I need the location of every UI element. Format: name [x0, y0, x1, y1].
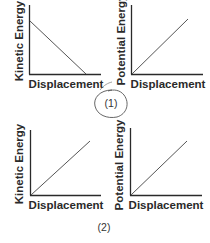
- y-axis-label: Kinetic Energy: [13, 123, 25, 204]
- y-axis-label: Potential Energy: [113, 119, 125, 210]
- y-axis-label: Potential Energy: [115, 0, 127, 85]
- x-axis-label: Displacement: [29, 78, 104, 90]
- graph-1-potential-energy: Potential Energy Displacement: [115, 0, 206, 90]
- x-axis-label: Displacement: [29, 199, 104, 211]
- data-line: [131, 141, 187, 195]
- graph-1-kinetic-energy: Kinetic Energy Displacement: [13, 0, 104, 90]
- data-line: [31, 141, 90, 195]
- graph-2-potential-energy: Potential Energy Displacement: [113, 119, 204, 211]
- caption-2-label: (2): [98, 221, 111, 233]
- caption-1-label: (1): [105, 97, 118, 109]
- y-axis-label: Kinetic Energy: [13, 0, 25, 81]
- x-axis-label: Displacement: [129, 199, 204, 211]
- graph-2-kinetic-energy: Kinetic Energy Displacement: [13, 123, 104, 211]
- x-axis-label: Displacement: [131, 78, 206, 90]
- data-line: [30, 21, 86, 74]
- data-line: [132, 19, 188, 74]
- energy-graphs-figure: Kinetic Energy Displacement Potential En…: [0, 0, 210, 243]
